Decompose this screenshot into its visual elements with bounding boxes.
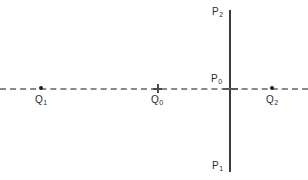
label-p2-base: P — [212, 6, 219, 17]
label-q2-base: Q — [266, 94, 274, 105]
label-q0: Q0 — [151, 94, 163, 105]
point-marker-q2 — [270, 86, 274, 90]
point-marker-q0 — [153, 84, 162, 93]
label-q1-base: Q — [35, 94, 43, 105]
label-p0: P0 — [211, 73, 222, 84]
label-p0-sub: 0 — [218, 78, 222, 85]
diagram-canvas: P2 P0 P1 Q1 Q0 Q2 — [0, 0, 308, 180]
label-p1-sub: 1 — [219, 165, 223, 172]
label-q0-base: Q — [151, 94, 159, 105]
label-q2: Q2 — [266, 94, 278, 105]
label-q1-sub: 1 — [43, 99, 47, 106]
point-marker-q1 — [39, 86, 43, 90]
label-p0-base: P — [211, 73, 218, 84]
intersection-tick-p0 — [223, 88, 238, 90]
label-q2-sub: 2 — [274, 99, 278, 106]
label-q1: Q1 — [35, 94, 47, 105]
label-p2-sub: 2 — [219, 11, 223, 18]
label-p1-base: P — [212, 160, 219, 171]
vertical-line-p — [229, 10, 231, 172]
label-q0-sub: 0 — [159, 99, 163, 106]
label-p1: P1 — [212, 160, 223, 171]
label-p2: P2 — [212, 6, 223, 17]
